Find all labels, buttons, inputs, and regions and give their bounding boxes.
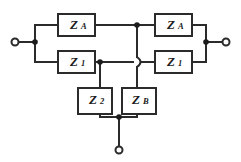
junction-top-center: [134, 22, 140, 28]
terminal-bottom[interactable]: [116, 147, 123, 154]
impedance-label: Z: [131, 92, 140, 107]
terminal-right[interactable]: [223, 39, 230, 46]
impedance-subscript: 2: [99, 96, 105, 106]
junction-z2-tap: [97, 59, 103, 65]
impedance-subscript: A: [80, 21, 87, 31]
impedance-zb-shunt[interactable]: Z B: [122, 88, 156, 114]
impedance-label: Z: [69, 54, 78, 69]
wire-crossover-hop: [137, 57, 141, 67]
impedance-subscript: B: [142, 96, 149, 106]
impedance-z2-shunt[interactable]: Z 2: [78, 88, 112, 114]
impedance-subscript: 1: [178, 58, 182, 68]
impedance-subscript: 1: [81, 58, 85, 68]
impedance-label: Z: [166, 54, 175, 69]
impedance-za-top-right[interactable]: Z A: [155, 14, 192, 36]
junction-left-input: [32, 39, 38, 45]
impedance-label: Z: [69, 17, 78, 32]
circuit-diagram: Z A Z 1 Z A Z 1 Z 2: [0, 0, 241, 162]
terminal-layer: [12, 39, 230, 154]
terminal-left[interactable]: [12, 39, 19, 46]
impedance-subscript: A: [177, 21, 184, 31]
circuit-schematic-canvas: Z A Z 1 Z A Z 1 Z 2: [0, 0, 241, 162]
impedance-z1-bottom-left[interactable]: Z 1: [58, 51, 95, 73]
wire-layer: [19, 25, 223, 147]
impedance-za-top-left[interactable]: Z A: [58, 14, 95, 36]
impedance-label: Z: [166, 17, 175, 32]
junction-bottom-common: [116, 114, 122, 120]
junction-right-output: [203, 39, 209, 45]
impedance-label: Z: [88, 92, 97, 107]
component-layer: Z A Z 1 Z A Z 1 Z 2: [58, 14, 192, 114]
impedance-z1-bottom-right[interactable]: Z 1: [155, 51, 192, 73]
